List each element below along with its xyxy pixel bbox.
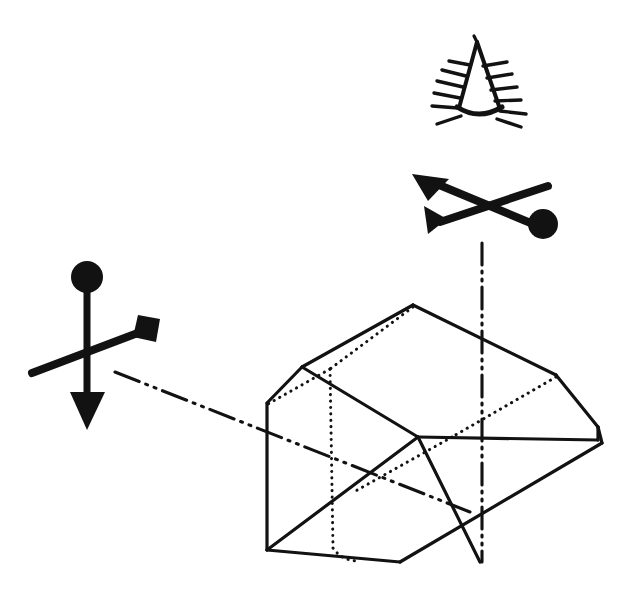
crystal-symmetry-figure xyxy=(0,0,634,596)
crossed-axis-circle xyxy=(528,209,558,239)
cone-hatch-r4 xyxy=(495,100,521,101)
cone-hatch-l5 xyxy=(432,106,458,108)
figure-background xyxy=(0,0,634,596)
figure-canvas: Crystal symmetry element diagram Line dr… xyxy=(0,0,634,596)
vertical-axis-circle-head xyxy=(71,261,103,293)
